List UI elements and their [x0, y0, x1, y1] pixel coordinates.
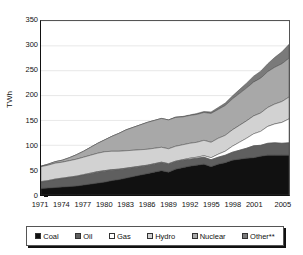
y-axis-tick-label: 300: [14, 41, 38, 49]
x-axis-tick-labels: 1971197419771980198319861989199219951998…: [0, 199, 303, 213]
legend-item-oil[interactable]: Oil: [75, 232, 92, 241]
stacked-area-chart: TWh 050100150200250300350 19711974197719…: [0, 0, 303, 216]
x-axis-tick-label: 2001: [241, 201, 267, 209]
x-axis-tick-label: 2005: [270, 201, 296, 209]
legend-item-coal[interactable]: Coal: [35, 232, 58, 241]
legend-label: Coal: [43, 232, 58, 241]
y-axis-tick-label: 50: [14, 167, 38, 175]
legend-swatch-icon: [192, 233, 198, 239]
legend-label: Gas: [117, 232, 131, 241]
legend-label: Hydro: [155, 232, 175, 241]
legend-item-hydro[interactable]: Hydro: [147, 232, 175, 241]
legend-swatch-icon: [242, 233, 248, 239]
legend-swatch-icon: [35, 233, 41, 239]
legend-item-other[interactable]: Other**: [242, 232, 275, 241]
legend-item-nuclear[interactable]: Nuclear: [192, 232, 226, 241]
y-axis-tick-label: 200: [14, 91, 38, 99]
legend-label: Nuclear: [200, 232, 226, 241]
y-axis-tick-label: 350: [14, 16, 38, 24]
legend-swatch-icon: [75, 233, 81, 239]
y-axis-tick-mark: [44, 196, 48, 197]
y-axis-tick-label: 250: [14, 66, 38, 74]
plot-svg: [41, 21, 289, 195]
y-axis-tick-labels: 050100150200250300350: [8, 0, 38, 216]
y-axis-tick-label: 100: [14, 142, 38, 150]
chart-page: TWh 050100150200250300350 19711974197719…: [0, 0, 303, 255]
legend-swatch-icon: [147, 233, 153, 239]
chart-legend: CoalOilGasHydroNuclearOther**: [26, 226, 284, 246]
legend-item-gas[interactable]: Gas: [109, 232, 131, 241]
legend-label: Oil: [83, 232, 92, 241]
plot-area: [40, 20, 290, 196]
legend-label: Other**: [250, 232, 275, 241]
legend-swatch-icon: [109, 233, 115, 239]
y-axis-tick-label: 150: [14, 117, 38, 125]
